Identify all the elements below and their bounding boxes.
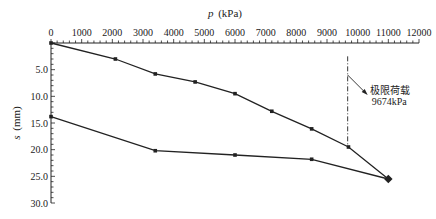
series-layer — [49, 41, 392, 183]
x-tick-label: 9000 — [317, 27, 337, 38]
x-tick-label: 5000 — [194, 27, 214, 38]
data-point-marker — [270, 109, 274, 113]
x-axis-title: p (kPa) — [207, 7, 242, 20]
data-point-marker — [347, 145, 351, 149]
x-tick-label: 1000 — [72, 27, 92, 38]
data-point-marker — [153, 149, 157, 153]
x-tick-label: 0 — [49, 27, 54, 38]
load-settlement-chart: p (kPa) 01000200030004000500060007000800… — [0, 0, 436, 219]
data-point-marker — [233, 153, 237, 157]
x-tick-label: 3000 — [133, 27, 153, 38]
series-line-unloading — [51, 117, 388, 179]
y-tick-label: 5.0 — [36, 64, 49, 75]
data-point-marker — [49, 41, 53, 45]
y-tick-label: 15.0 — [31, 118, 49, 129]
y-axis-title-var: s — [10, 135, 22, 139]
series-line-loading — [51, 43, 388, 179]
data-point-marker — [193, 80, 197, 84]
y-tick-label: 10.0 — [31, 91, 49, 102]
annotation-layer: 极限荷载 9674kPa — [348, 56, 410, 147]
ultimate-load-label: 极限荷载 — [370, 84, 410, 96]
x-tick-label: 7000 — [256, 27, 276, 38]
data-point-marker — [114, 57, 118, 61]
y-tick-label: 20.0 — [31, 144, 49, 155]
x-tick-label: 12000 — [407, 27, 432, 38]
y-tick-label: 30.0 — [31, 198, 49, 209]
y-axis-title-unit: (mm) — [10, 106, 23, 131]
x-axis: 0100020003000400050006000700080009000100… — [49, 27, 432, 43]
x-tick-label: 6000 — [225, 27, 245, 38]
svg-text:p (kPa): p (kPa) — [207, 7, 242, 20]
ultimate-load-value: 9674kPa — [372, 96, 408, 107]
x-tick-label: 11000 — [376, 27, 401, 38]
svg-text:s (mm): s (mm) — [10, 106, 23, 140]
x-tick-label: 4000 — [164, 27, 184, 38]
annotation-arrow — [348, 75, 366, 93]
x-tick-label: 8000 — [286, 27, 306, 38]
data-point-marker — [153, 72, 157, 76]
y-tick-label: 25.0 — [31, 171, 49, 182]
data-point-marker — [49, 115, 53, 119]
data-point-marker — [310, 157, 314, 161]
y-axis: 5.010.015.020.025.030.0 — [31, 43, 56, 209]
x-tick-label: 2000 — [102, 27, 122, 38]
y-axis-title: s (mm) — [10, 106, 23, 140]
data-point-marker — [233, 92, 237, 96]
data-point-marker — [310, 127, 314, 131]
x-axis-title-unit: (kPa) — [218, 7, 242, 20]
x-tick-label: 10000 — [345, 27, 370, 38]
x-axis-title-var: p — [207, 7, 214, 19]
